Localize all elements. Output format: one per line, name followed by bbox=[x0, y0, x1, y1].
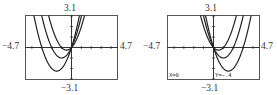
graph-panel-right: 3.1 −4.7 4.7 −3.1 X=0 Y=−.4 bbox=[139, 0, 277, 95]
trace-x-readout: X=0 bbox=[169, 72, 179, 78]
graph-panel-left: 3.1 −4.7 4.7 −3.1 bbox=[0, 0, 138, 95]
trace-y-readout: Y=−.4 bbox=[215, 72, 232, 78]
plot-area bbox=[139, 0, 277, 95]
